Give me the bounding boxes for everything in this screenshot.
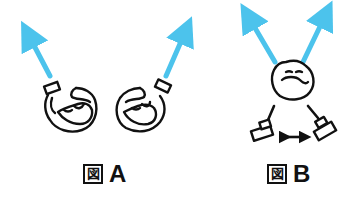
figure-a-person-right	[117, 79, 171, 131]
figure-a-caption: 図 A	[83, 162, 126, 186]
figure-b-arrows	[248, 14, 326, 62]
figure-a-letter: A	[109, 162, 126, 186]
figure-a-arrow-left	[28, 34, 50, 76]
figure-b-object-left	[251, 120, 273, 141]
figure-b-letter: B	[293, 162, 310, 186]
figure-b-person	[272, 61, 313, 100]
figure-b-caption: 図 B	[267, 162, 310, 186]
figure-b-object-right	[314, 117, 336, 140]
figure-kanji-icon: 図	[267, 164, 287, 184]
figure-a-person-left	[44, 82, 96, 132]
figure-b-connectors	[268, 106, 318, 120]
figure-a-arrow-right	[166, 30, 186, 76]
figure-kanji-icon: 図	[83, 164, 103, 184]
